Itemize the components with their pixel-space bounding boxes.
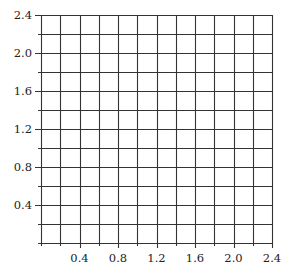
x-axis: 0.40.81.21.62.02.4 bbox=[70, 251, 281, 265]
x-tick-label: 2.4 bbox=[263, 251, 281, 265]
y-tick-label: 1.6 bbox=[14, 84, 32, 98]
y-tick-label: 0.8 bbox=[14, 160, 32, 174]
grid-plot: 2.42.01.61.20.80.4 0.40.81.21.62.02.4 bbox=[0, 0, 294, 274]
y-tick-label: 0.4 bbox=[14, 198, 32, 212]
y-tick-label: 2.0 bbox=[14, 46, 32, 60]
x-tick-label: 0.4 bbox=[70, 251, 88, 265]
x-tick-label: 1.6 bbox=[186, 251, 204, 265]
y-tick-label: 1.2 bbox=[14, 122, 32, 136]
x-tick-label: 0.8 bbox=[109, 251, 127, 265]
x-tick-label: 1.2 bbox=[147, 251, 165, 265]
grid-chart: 2.42.01.61.20.80.4 0.40.81.21.62.02.4 bbox=[0, 0, 294, 274]
x-tick-label: 2.0 bbox=[224, 251, 242, 265]
y-tick-label: 2.4 bbox=[14, 8, 32, 22]
grid-lines bbox=[35, 15, 273, 248]
y-axis: 2.42.01.61.20.80.4 bbox=[14, 8, 32, 212]
